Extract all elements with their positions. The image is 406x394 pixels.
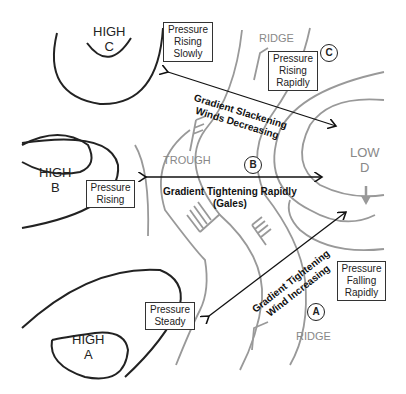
box-line: Rising — [90, 194, 131, 206]
pressure-rising-rapidly-box: Pressure Rising Rapidly — [268, 51, 318, 91]
box-line: Rapidly — [272, 77, 314, 89]
high-a-label: HIGH A — [72, 333, 105, 363]
box-line: Rapidly — [341, 287, 382, 299]
pressure-steady-box: Pressure Steady — [145, 302, 195, 330]
marker-a: A — [307, 303, 325, 321]
box-line: Pressure — [272, 53, 314, 65]
low-d-label: LOW D — [350, 146, 380, 176]
box-line: Pressure — [149, 304, 191, 316]
pressure-rising-box: Pressure Rising — [86, 180, 135, 208]
high-letter: C — [93, 40, 126, 55]
high-c-label: HIGH C — [93, 25, 126, 55]
high-b-label: HIGH B — [39, 166, 72, 196]
pressure-falling-rapidly-box: Pressure Falling Rapidly — [337, 261, 386, 301]
marker-c: C — [320, 44, 338, 62]
high-text: HIGH — [72, 333, 105, 348]
gradient-line: Gradient Tightening Rapidly — [163, 186, 297, 198]
high-letter: B — [39, 181, 72, 196]
box-line: Rising — [167, 36, 209, 48]
ridge-label-bottom: RIDGE — [296, 330, 331, 343]
high-letter: A — [72, 348, 105, 363]
gradient-tightening-rapidly-label: Gradient Tightening Rapidly (Gales) — [163, 186, 297, 209]
box-line: Steady — [149, 316, 191, 328]
gradient-line: (Gales) — [163, 198, 297, 210]
marker-b: B — [244, 156, 262, 174]
low-text: LOW — [350, 146, 380, 161]
box-line: Pressure — [90, 182, 131, 194]
box-line: Rising — [272, 65, 314, 77]
high-text: HIGH — [93, 25, 126, 40]
weather-map-diagram: HIGH C HIGH B HIGH A LOW D RIDGE TROUGH … — [0, 0, 406, 394]
pressure-rising-slowly-box: Pressure Rising Slowly — [163, 22, 213, 62]
trough-label: TROUGH — [163, 154, 211, 167]
box-line: Falling — [341, 275, 382, 287]
ridge-label-top: RIDGE — [259, 32, 294, 45]
low-letter: D — [350, 161, 380, 176]
box-line: Pressure — [341, 263, 382, 275]
box-line: Slowly — [167, 48, 209, 60]
high-text: HIGH — [39, 166, 72, 181]
box-line: Pressure — [167, 24, 209, 36]
